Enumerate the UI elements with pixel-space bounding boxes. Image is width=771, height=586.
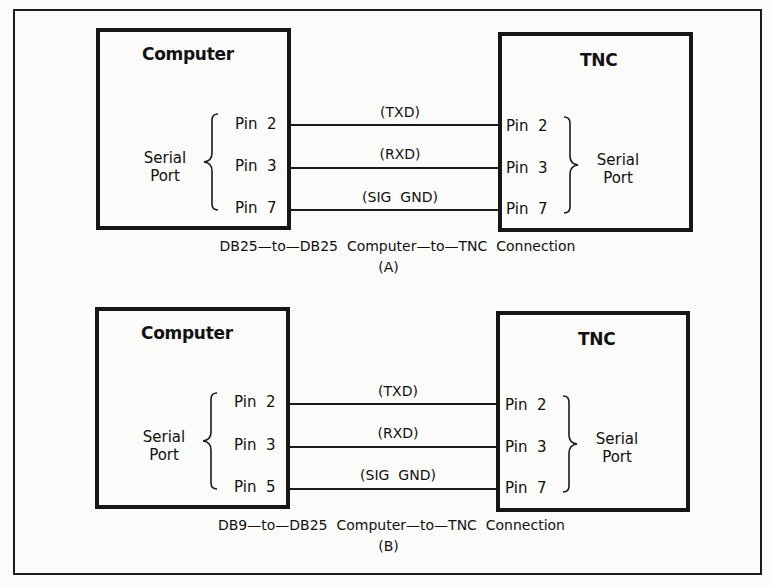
left-brace-icon-a bbox=[200, 113, 220, 211]
tnc-pin-b-1: Pin 2 bbox=[505, 396, 546, 414]
computer-pin-a-3: Pin 7 bbox=[235, 199, 276, 217]
label-a: (A) bbox=[3, 259, 771, 275]
caption-a: DB25—to—DB25 Computer—to—TNC Connection bbox=[12, 238, 771, 254]
computer-title-a: Computer bbox=[142, 44, 234, 64]
right-brace-icon-a bbox=[562, 116, 582, 214]
wire-sig-gnd-b bbox=[290, 488, 498, 490]
tnc-pin-b-2: Pin 3 bbox=[505, 438, 546, 456]
computer-pin-a-1: Pin 2 bbox=[235, 115, 276, 133]
wire-txd-a bbox=[291, 124, 500, 126]
signal-sig-gnd-a: (SIG GND) bbox=[300, 189, 500, 205]
caption-b: DB9—to—DB25 Computer—to—TNC Connection bbox=[6, 517, 771, 533]
wire-rxd-b bbox=[290, 446, 498, 448]
signal-sig-gnd-b: (SIG GND) bbox=[298, 467, 498, 483]
signal-rxd-a: (RXD) bbox=[300, 146, 500, 162]
left-brace-icon-b bbox=[199, 392, 219, 490]
computer-pin-b-2: Pin 3 bbox=[234, 436, 275, 454]
right-brace-icon-b bbox=[561, 395, 581, 493]
wire-sig-gnd-a bbox=[291, 209, 500, 211]
tnc-pin-b-3: Pin 7 bbox=[505, 479, 546, 497]
signal-txd-a: (TXD) bbox=[300, 104, 500, 120]
label-b: (B) bbox=[3, 538, 771, 554]
computer-serial-port-label-a: Serial Port bbox=[140, 149, 190, 185]
computer-title-b: Computer bbox=[141, 323, 233, 343]
tnc-title-b: TNC bbox=[578, 329, 615, 349]
tnc-pin-a-1: Pin 2 bbox=[506, 117, 547, 135]
computer-pin-a-2: Pin 3 bbox=[235, 157, 276, 175]
wire-txd-b bbox=[290, 403, 498, 405]
signal-txd-b: (TXD) bbox=[298, 383, 498, 399]
computer-serial-port-label-b: Serial Port bbox=[139, 428, 189, 464]
tnc-pin-a-3: Pin 7 bbox=[506, 200, 547, 218]
tnc-pin-a-2: Pin 3 bbox=[506, 159, 547, 177]
computer-pin-b-3: Pin 5 bbox=[234, 478, 275, 496]
tnc-serial-port-label-a: Serial Port bbox=[593, 151, 643, 187]
signal-rxd-b: (RXD) bbox=[298, 425, 498, 441]
wire-rxd-a bbox=[291, 167, 500, 169]
computer-pin-b-1: Pin 2 bbox=[234, 393, 275, 411]
tnc-title-a: TNC bbox=[580, 50, 617, 70]
tnc-serial-port-label-b: Serial Port bbox=[592, 430, 642, 466]
